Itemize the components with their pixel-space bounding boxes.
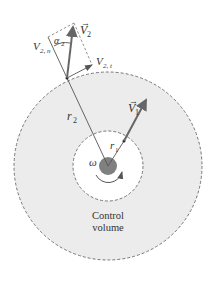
svg-text:1: 1 (115, 146, 119, 154)
control-volume-diagram: V 2 → α 2 V 2, n V 2, t r 2 V 1 → r 1 ω … (0, 0, 216, 281)
svg-text:1: 1 (135, 108, 139, 117)
svg-text:→: → (129, 96, 138, 106)
label-omega: ω (89, 156, 97, 168)
label-alpha2: α 2 (54, 35, 65, 48)
svg-text:→: → (81, 18, 90, 28)
label-v2t: V 2, t (96, 55, 113, 70)
svg-text:α: α (54, 35, 60, 46)
svg-text:2: 2 (61, 40, 65, 48)
svg-text:r: r (67, 109, 72, 123)
control-volume-label-line2: volume (92, 222, 124, 233)
control-volume-label-line1: Control (92, 210, 124, 221)
dashed-construction-1 (48, 23, 74, 37)
label-v2n: V 2, n (33, 40, 51, 55)
svg-text:2, n: 2, n (40, 47, 51, 55)
svg-text:2: 2 (73, 116, 77, 125)
v2-arrow (67, 27, 73, 78)
label-v2: V 2 → (80, 18, 91, 39)
svg-text:2: 2 (87, 30, 91, 39)
svg-text:2, t: 2, t (103, 62, 113, 70)
